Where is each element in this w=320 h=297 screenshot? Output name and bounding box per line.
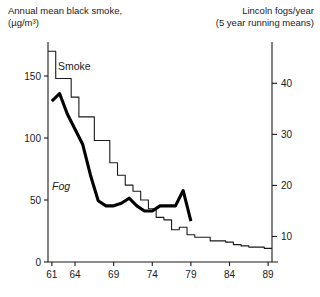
right-tick-label: 20 <box>281 180 293 191</box>
series-line-smoke <box>48 51 272 248</box>
tick-labels-group: 0501001501020304061646974798489 <box>24 71 292 281</box>
left-tick-label: 100 <box>24 133 41 144</box>
x-tick-label: 69 <box>108 269 120 280</box>
right-tick-label: 30 <box>281 129 293 140</box>
x-tick-label: 79 <box>185 269 197 280</box>
series-label-fog: Fog <box>52 180 70 192</box>
right-tick-label: 10 <box>281 231 293 242</box>
chart-plot: 0501001501020304061646974798489 SmokeFog <box>0 0 320 297</box>
x-tick-label: 61 <box>46 269 58 280</box>
right-tick-label: 40 <box>281 78 293 89</box>
x-tick-label: 84 <box>224 269 236 280</box>
series-line-fog <box>52 94 191 222</box>
axes-group <box>48 42 278 262</box>
series-label-smoke: Smoke <box>58 60 91 72</box>
left-tick-label: 150 <box>24 71 41 82</box>
data-series-group <box>48 51 272 248</box>
x-tick-label: 74 <box>147 269 159 280</box>
x-tick-label: 64 <box>69 269 81 280</box>
x-tick-label: 89 <box>263 269 275 280</box>
left-tick-label: 50 <box>30 195 42 206</box>
left-tick-label: 0 <box>35 257 41 268</box>
